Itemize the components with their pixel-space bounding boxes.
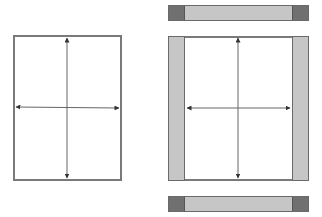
plain-page-horizontal-arrow-icon xyxy=(16,107,119,108)
dimension-arrows xyxy=(0,0,322,217)
